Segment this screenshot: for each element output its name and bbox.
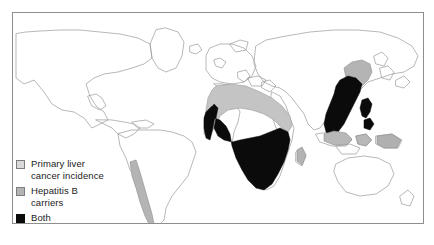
- north-america-outline: [16, 30, 152, 128]
- japan-east-outline: [396, 76, 410, 88]
- italy-outline: [238, 70, 250, 82]
- new-zealand-outline: [400, 190, 414, 206]
- australia-outline: [334, 156, 394, 196]
- map-legend: Primary liver cancer incidence Hepatitis…: [16, 158, 104, 224]
- japan-north-outline: [374, 52, 388, 66]
- region-indonesia: [324, 131, 352, 145]
- region-south-china-sea-asia: [324, 76, 362, 136]
- legend-label-hepatitis-b: Hepatitis B carriers: [31, 185, 78, 208]
- region-new-guinea: [377, 134, 401, 148]
- japan-south-outline: [380, 66, 394, 80]
- disease-regions-layer: [130, 60, 401, 226]
- legend-label-liver-cancer: Primary liver cancer incidence: [31, 158, 104, 181]
- legend-item-both: Both: [16, 212, 104, 224]
- java-outline: [336, 144, 360, 154]
- legend-label-both: Both: [31, 212, 51, 224]
- region-madagascar: [297, 147, 306, 165]
- iceland-outline: [190, 44, 202, 54]
- world-distribution-map: Primary liver cancer incidence Hepatitis…: [0, 0, 434, 245]
- arabia-outline: [262, 80, 276, 92]
- caribbean-outline: [132, 120, 154, 128]
- region-andes-chile: [130, 160, 154, 226]
- south-america-outline: [118, 130, 196, 226]
- hudson-bay-outline: [88, 94, 106, 110]
- region-philippines: [360, 98, 372, 118]
- legend-swatch-both: [16, 214, 25, 223]
- region-sulawesi: [356, 134, 371, 146]
- greenland-outline: [150, 28, 184, 72]
- legend-item-liver-cancer: Primary liver cancer incidence: [16, 158, 104, 181]
- legend-swatch-liver-cancer: [16, 160, 25, 169]
- legend-item-hepatitis-b: Hepatitis B carriers: [16, 185, 104, 208]
- region-philippines-south: [364, 118, 374, 130]
- british-isles-outline: [214, 58, 226, 68]
- legend-swatch-hepatitis-b: [16, 187, 25, 196]
